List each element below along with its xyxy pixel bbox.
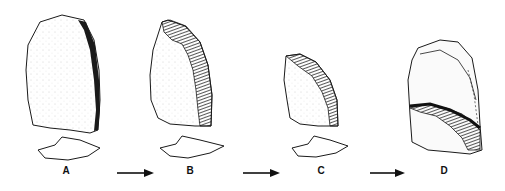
stage-a-artifact <box>26 15 100 160</box>
figure-drawing <box>0 0 505 191</box>
stage-label-c: C <box>311 165 331 176</box>
arrow-a-to-b <box>117 169 154 177</box>
reduction-sequence-figure: A B C D <box>0 0 505 191</box>
arrow-c-to-d <box>370 169 405 177</box>
stage-label-b: B <box>180 165 200 176</box>
stage-d-artifact <box>408 40 482 154</box>
stage-b-cross-section <box>160 136 224 158</box>
stage-label-d: D <box>434 165 454 176</box>
stage-b-artifact <box>150 20 224 158</box>
arrow-b-to-c <box>243 169 280 177</box>
stage-c-artifact <box>284 54 348 157</box>
stage-c-cross-section <box>292 136 348 157</box>
stage-label-a: A <box>56 165 76 176</box>
stage-a-cross-section <box>38 137 100 160</box>
